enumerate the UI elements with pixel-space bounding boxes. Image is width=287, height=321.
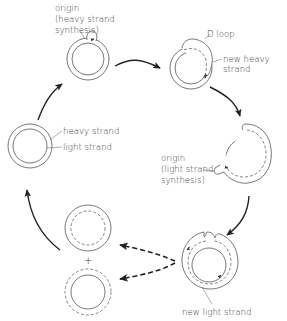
arrow-2-to-3-icon (210, 87, 240, 116)
stage-origin-light: origin (light strand synthesis) (161, 124, 271, 185)
arrow-5-to-6-icon (27, 190, 60, 250)
label-new-heavy: new heavy (223, 54, 270, 64)
small-arrow-icon (188, 247, 189, 250)
label-light-strand: light strand (63, 142, 112, 152)
small-arrow-icon (219, 275, 221, 277)
arrow-1-to-2-icon (115, 60, 160, 68)
leader-line (213, 59, 222, 62)
stage-daughters: + (65, 205, 111, 315)
dashed-arrows-to-daughters (120, 245, 175, 279)
plus-sign: + (84, 255, 92, 266)
label-heavy-strand-paren: (heavy strand (55, 14, 115, 24)
dashed-arrow-top-icon (120, 245, 175, 261)
dashed-arrow-bottom-icon (120, 263, 175, 279)
light-strand-ring (13, 129, 47, 163)
heavy-strand-ring (8, 124, 52, 168)
label-new-light-strand: new light strand (182, 307, 252, 317)
daughter-2-inner-solid (71, 275, 105, 309)
arrow-3-to-4-icon (227, 196, 249, 235)
displaced-loop (214, 124, 271, 183)
stage-new-light: new light strand (182, 232, 252, 317)
leader-line (51, 131, 62, 139)
label-heavy-strand: heavy strand (63, 126, 119, 136)
new-strands-dashed (188, 241, 231, 284)
label-origin: origin (161, 153, 185, 163)
label-light-strand-paren: (light strand (161, 164, 213, 174)
stage-parent: heavy strand light strand (8, 124, 119, 168)
stage-origin-heavy: origin (heavy strand synthesis) (55, 3, 115, 80)
daughter-1-outer-solid (65, 205, 111, 251)
label-origin: origin (55, 3, 79, 13)
leader-line (47, 147, 62, 148)
inner-ring (192, 248, 226, 282)
inner-light-strand-ring (72, 43, 104, 75)
outer-ring-with-gap (182, 232, 238, 289)
daughter-2-outer-dashed (65, 269, 111, 315)
label-synthesis: synthesis) (161, 175, 205, 185)
mtdna-replication-diagram: origin (heavy strand synthesis) D loop n… (0, 0, 287, 321)
daughter-1-inner-dashed (71, 211, 105, 245)
d-loop-displaced-strand (182, 39, 212, 76)
label-d-loop: D loop (207, 29, 235, 39)
label-strand: strand (223, 64, 251, 74)
stage-d-loop: D loop new heavy strand (170, 29, 270, 89)
leader-line (202, 287, 212, 304)
outer-heavy-strand-ring (67, 38, 109, 80)
label-synthesis: synthesis) (55, 25, 99, 35)
arrow-6-to-1-icon (38, 84, 62, 120)
